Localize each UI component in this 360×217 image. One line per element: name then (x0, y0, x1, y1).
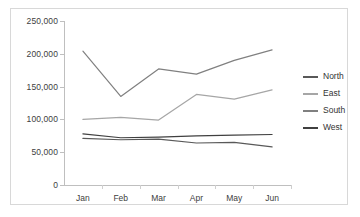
legend-swatch-south (303, 110, 318, 112)
y-axis-tick-label: 150,000 (27, 82, 58, 92)
x-axis-tick-label: May (226, 193, 242, 203)
x-axis-tick-label: Jan (76, 193, 90, 203)
x-axis-tick-mark (140, 185, 141, 189)
x-axis-tick-mark (102, 185, 103, 189)
x-axis-tick-label: Mar (151, 193, 166, 203)
series-lines (64, 21, 291, 185)
legend-swatch-east (303, 93, 318, 95)
plot-area: 050,000100,000150,000200,000250,000 JanF… (64, 21, 291, 185)
series-line-west (83, 134, 272, 138)
x-axis-tick-label: Feb (113, 193, 128, 203)
y-axis-tick-mark (60, 185, 64, 186)
y-axis-tick-label: 200,000 (27, 49, 58, 59)
x-axis-tick-label: Apr (190, 193, 203, 203)
legend-swatch-north (303, 76, 318, 78)
y-axis-tick-label: 100,000 (27, 114, 58, 124)
series-line-south (83, 50, 272, 97)
legend-item-north[interactable]: North (303, 69, 359, 84)
legend-label: East (323, 89, 340, 98)
legend-item-south[interactable]: South (303, 103, 359, 118)
x-axis-tick-mark (291, 185, 292, 189)
y-axis-tick-label: 0 (53, 180, 58, 190)
legend-item-west[interactable]: West (303, 120, 359, 135)
chart-container: 050,000100,000150,000200,000250,000 JanF… (10, 8, 348, 205)
legend-label: West (323, 123, 342, 132)
x-axis-tick-mark (178, 185, 179, 189)
chart-legend: NorthEastSouthWest (303, 69, 359, 137)
legend-label: South (323, 106, 345, 115)
x-axis-tick-mark (215, 185, 216, 189)
x-axis-tick-mark (253, 185, 254, 189)
legend-swatch-west (303, 127, 318, 129)
series-line-east (83, 90, 272, 120)
legend-item-east[interactable]: East (303, 86, 359, 101)
y-axis-tick-label: 50,000 (31, 147, 58, 157)
x-axis-tick-label: Jun (265, 193, 279, 203)
legend-label: North (323, 72, 344, 81)
y-axis-tick-label: 250,000 (27, 16, 58, 26)
series-line-north (83, 138, 272, 147)
